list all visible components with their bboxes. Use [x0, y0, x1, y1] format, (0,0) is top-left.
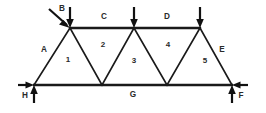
label-member-g: G [130, 90, 136, 99]
member-diagonal-1 [70, 28, 102, 85]
member-diagonal-3 [134, 28, 167, 85]
label-member-f: F [238, 91, 243, 100]
truss-svg-canvas: A B C D E F G H 1 2 3 4 5 [0, 0, 266, 113]
reaction-arrow-horizontal-right [232, 82, 248, 89]
label-panel-4: 4 [166, 40, 171, 49]
label-member-e: E [219, 45, 225, 54]
label-member-d: D [164, 12, 170, 21]
label-panel-1: 1 [66, 55, 71, 64]
node-bottom-mid-right [166, 84, 169, 87]
label-member-a: A [41, 45, 47, 54]
load-arrow-down-right [196, 7, 204, 28]
load-arrow-down-middle [130, 7, 138, 28]
label-member-b: B [59, 4, 65, 13]
member-diagonal-2 [102, 28, 134, 85]
member-diagonal-4 [167, 28, 200, 85]
label-panel-5: 5 [203, 56, 208, 65]
label-panel-3: 3 [132, 56, 137, 65]
truss-diagram: A B C D E F G H 1 2 3 4 5 [0, 0, 266, 113]
reaction-arrow-vertical-right [228, 85, 236, 103]
reaction-arrow-horizontal-left [18, 82, 34, 89]
label-member-c: C [101, 12, 107, 21]
node-bottom-mid-left [101, 84, 104, 87]
label-member-h: H [22, 91, 28, 100]
applied-load-arrows [49, 7, 204, 28]
member-left-end-post [34, 28, 70, 85]
reaction-arrow-vertical-left [30, 85, 38, 103]
label-panel-2: 2 [101, 40, 106, 49]
